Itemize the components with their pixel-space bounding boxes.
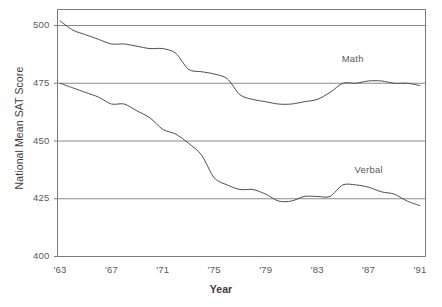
x-tick-label-75: '75 <box>194 264 234 275</box>
y-tick-label-475: 475 <box>10 77 50 88</box>
plot-canvas <box>0 0 442 307</box>
sat-score-line-chart: National Mean SAT Score Year 50047545042… <box>0 0 442 307</box>
x-tick-label-67: '67 <box>91 264 131 275</box>
x-tick-label-91: '91 <box>400 264 440 275</box>
series-label-verbal: Verbal <box>355 164 383 175</box>
y-tick-label-425: 425 <box>10 192 50 203</box>
series-line-math <box>60 21 420 104</box>
series-label-math: Math <box>342 53 364 64</box>
x-tick-label-71: '71 <box>143 264 183 275</box>
x-tick-label-83: '83 <box>297 264 337 275</box>
x-tick-label-87: '87 <box>349 264 389 275</box>
y-tick-label-450: 450 <box>10 135 50 146</box>
y-tick-label-500: 500 <box>10 19 50 30</box>
x-tick-label-79: '79 <box>246 264 286 275</box>
x-tick-label-63: '63 <box>40 264 80 275</box>
y-tick-label-400: 400 <box>10 250 50 261</box>
x-axis-title: Year <box>0 283 442 295</box>
series-line-verbal <box>60 83 420 205</box>
